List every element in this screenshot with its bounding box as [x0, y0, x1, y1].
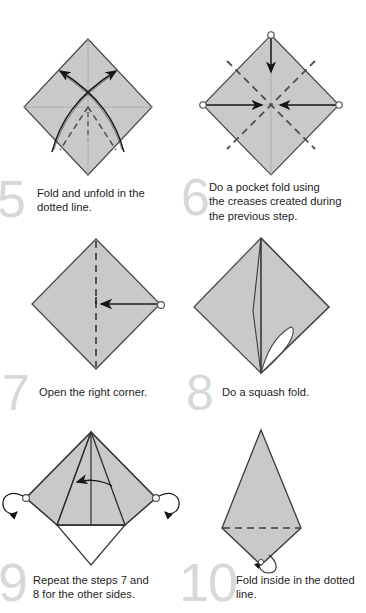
figure-step-6 — [183, 0, 366, 185]
step-panel-7: 7 Open the right corner. — [0, 225, 183, 410]
caption-line: line. — [236, 587, 366, 601]
caption-line: Do a squash fold. — [222, 385, 362, 399]
step-number-6: 6 — [181, 176, 209, 219]
step-panel-5: 5 Fold and unfold in the dotted line. — [0, 0, 183, 215]
step-number-10: 10 — [179, 560, 237, 604]
figure-step-9 — [0, 410, 183, 570]
vertex-marker-bottom — [258, 559, 263, 564]
vertex-marker-right — [153, 495, 160, 502]
vertex-marker-top — [268, 32, 274, 38]
step-number-7: 7 — [2, 373, 29, 414]
figure-step-7 — [0, 225, 183, 380]
step-number-8: 8 — [186, 373, 213, 414]
step-panel-9: 9 Repeat the steps 7 and 8 for the other… — [0, 410, 183, 613]
step-caption-8: Do a squash fold. — [222, 385, 362, 399]
step-panel-6: 6 Do a pocket fold using the creases cre… — [183, 0, 366, 215]
step-caption-9: Repeat the steps 7 and 8 for the other s… — [33, 573, 178, 602]
step-caption-7: Open the right corner. — [39, 385, 179, 399]
vertex-marker-left — [23, 495, 30, 502]
vertex-marker-right — [158, 302, 165, 309]
figure-step-10 — [183, 410, 366, 575]
step-number-5: 5 — [0, 178, 25, 221]
caption-line: Do a pocket fold using — [209, 180, 361, 194]
caption-line: Open the right corner. — [39, 385, 179, 399]
vertex-marker-right — [336, 102, 342, 108]
caption-line: Fold and unfold in the — [37, 186, 177, 200]
repeat-curl-arrow-left — [3, 493, 23, 513]
origami-instruction-sheet: 5 Fold and unfold in the dotted line. — [0, 0, 366, 613]
paper-shape — [222, 430, 301, 565]
repeat-curl-arrow-right — [159, 493, 179, 513]
figure-step-8 — [183, 225, 366, 380]
vertex-marker-left — [200, 102, 206, 108]
caption-line: 8 for the other sides. — [33, 587, 178, 601]
lower-triangle — [57, 525, 125, 565]
step-caption-5: Fold and unfold in the dotted line. — [37, 186, 177, 215]
caption-line: the creases created during — [209, 194, 361, 208]
step-panel-8: 8 Do a squash fold. — [183, 225, 366, 410]
caption-line: dotted line. — [37, 200, 177, 214]
caption-line: Repeat the steps 7 and — [33, 573, 178, 587]
caption-line: Fold inside in the dotted — [236, 573, 366, 587]
figure-step-5 — [0, 0, 183, 185]
step-panel-10: 10 Fold inside in the dotted line. — [183, 410, 366, 613]
step-caption-6: Do a pocket fold using the creases creat… — [209, 180, 361, 223]
step-caption-10: Fold inside in the dotted line. — [236, 573, 366, 602]
step-number-9: 9 — [0, 560, 27, 604]
caption-line: the previous step. — [209, 209, 361, 223]
